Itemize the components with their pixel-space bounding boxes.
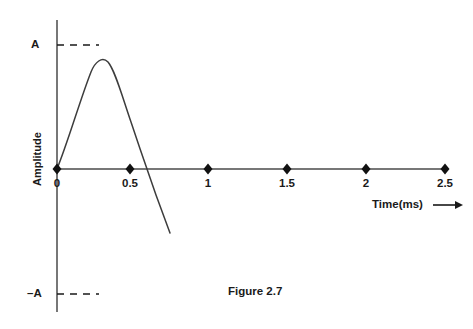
tick-label-2: 2 xyxy=(351,178,381,190)
figure-container: 0 0.5 1 1.5 2 2.5 A –A Amplitude Time(ms… xyxy=(0,0,473,329)
time-axis-arrow xyxy=(433,201,463,209)
amplitude-negative-label: –A xyxy=(27,288,42,300)
tick-label-0: 0 xyxy=(42,178,72,190)
tick-marker-1.5 xyxy=(283,164,292,175)
figure-caption: Figure 2.7 xyxy=(228,286,282,298)
tick-marker-0 xyxy=(53,164,62,175)
tick-marker-2 xyxy=(362,164,371,175)
tick-label-1: 1 xyxy=(193,178,223,190)
tick-label-2-5: 2.5 xyxy=(430,178,460,190)
x-axis-title: Time(ms) xyxy=(372,199,423,211)
tick-marker-0.5 xyxy=(126,164,135,175)
tick-marker-1 xyxy=(204,164,213,175)
waveform-plot xyxy=(0,0,473,329)
tick-marker-2.5 xyxy=(441,164,450,175)
tick-label-1-5: 1.5 xyxy=(272,178,302,190)
amplitude-positive-label: A xyxy=(31,39,39,51)
y-axis-title: Amplitude xyxy=(32,132,43,186)
tick-label-0-5: 0.5 xyxy=(115,178,145,190)
waveform-curve xyxy=(57,60,170,233)
